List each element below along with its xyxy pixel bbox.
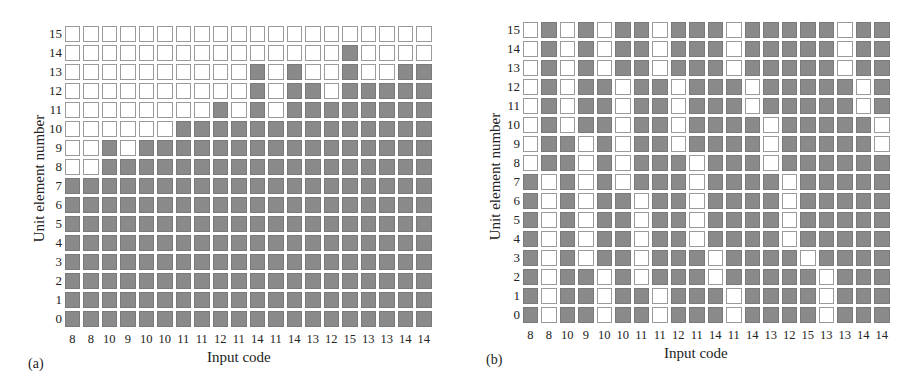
unit-element-grid <box>63 24 433 328</box>
unit-element-cell <box>398 102 414 118</box>
unit-element-cell <box>745 212 761 228</box>
unit-element-cell <box>597 155 613 171</box>
unit-element-cell <box>634 41 650 57</box>
unit-element-cell <box>745 155 761 171</box>
unit-element-cell <box>597 269 613 285</box>
unit-element-cell <box>560 41 576 57</box>
unit-element-cell <box>139 216 155 232</box>
unit-element-cell <box>819 117 835 133</box>
unit-element-cell <box>560 117 576 133</box>
unit-element-cell <box>763 41 779 57</box>
unit-element-cell <box>819 288 835 304</box>
y-tick-label: 11 <box>500 96 520 115</box>
y-axis-ticks: 1514131211109876543210 <box>500 20 520 324</box>
unit-element-cell <box>83 235 99 251</box>
unit-element-cell <box>874 250 890 266</box>
unit-element-cell <box>745 79 761 95</box>
unit-element-cell <box>157 235 173 251</box>
y-tick-label: 4 <box>42 233 62 252</box>
unit-element-cell <box>541 22 557 38</box>
unit-element-cell <box>83 45 99 61</box>
unit-element-cell <box>157 45 173 61</box>
x-tick-label: 15 <box>799 328 818 343</box>
unit-element-cell <box>83 254 99 270</box>
panel-a: Unit element number 15141312111098765432… <box>0 0 458 389</box>
unit-element-cell <box>837 174 853 190</box>
unit-element-cell <box>268 197 284 213</box>
unit-element-cell <box>342 311 358 327</box>
unit-element-cell <box>634 98 650 114</box>
unit-element-cell <box>287 292 303 308</box>
unit-element-cell <box>416 273 432 289</box>
unit-element-cell <box>213 140 229 156</box>
unit-element-cell <box>819 231 835 247</box>
unit-element-cell <box>268 102 284 118</box>
unit-element-cell <box>398 159 414 175</box>
unit-element-cell <box>578 155 594 171</box>
y-tick-label: 3 <box>500 248 520 267</box>
unit-element-cell <box>541 60 557 76</box>
unit-element-cell <box>287 102 303 118</box>
y-tick-label: 6 <box>42 195 62 214</box>
unit-element-cell <box>800 288 816 304</box>
unit-element-cell <box>819 250 835 266</box>
unit-element-cell <box>342 254 358 270</box>
unit-element-cell <box>689 212 705 228</box>
unit-element-cell <box>324 292 340 308</box>
unit-element-cell <box>615 155 631 171</box>
unit-element-cell <box>305 121 321 137</box>
unit-element-cell <box>102 159 118 175</box>
unit-element-cell <box>782 288 798 304</box>
unit-element-cell <box>615 136 631 152</box>
unit-element-cell <box>194 140 210 156</box>
unit-element-cell <box>671 288 687 304</box>
unit-element-cell <box>541 307 557 323</box>
unit-element-cell <box>523 288 539 304</box>
unit-element-cell <box>157 83 173 99</box>
unit-element-cell <box>416 45 432 61</box>
unit-element-cell <box>305 178 321 194</box>
unit-element-cell <box>652 193 668 209</box>
unit-element-cell <box>782 60 798 76</box>
unit-element-cell <box>361 26 377 42</box>
unit-element-cell <box>763 60 779 76</box>
unit-element-cell <box>102 235 118 251</box>
y-tick-label: 14 <box>500 39 520 58</box>
unit-element-cell <box>65 235 81 251</box>
panel-label: (a) <box>28 356 44 372</box>
unit-element-cell <box>523 22 539 38</box>
unit-element-cell <box>745 41 761 57</box>
x-tick-label: 10 <box>137 332 156 347</box>
unit-element-cell <box>65 216 81 232</box>
unit-element-cell <box>782 212 798 228</box>
unit-element-cell <box>800 250 816 266</box>
unit-element-cell <box>416 216 432 232</box>
unit-element-cell <box>102 102 118 118</box>
unit-element-cell <box>157 197 173 213</box>
unit-element-cell <box>856 174 872 190</box>
unit-element-cell <box>671 212 687 228</box>
unit-element-cell <box>837 41 853 57</box>
unit-element-cell <box>213 26 229 42</box>
unit-element-cell <box>689 117 705 133</box>
unit-element-cell <box>689 231 705 247</box>
unit-element-cell <box>671 193 687 209</box>
y-tick-label: 9 <box>500 134 520 153</box>
unit-element-cell <box>671 22 687 38</box>
unit-element-cell <box>800 22 816 38</box>
x-axis-ticks: 8810910101111121114111413121513131414 <box>63 332 433 347</box>
unit-element-cell <box>726 269 742 285</box>
unit-element-cell <box>324 311 340 327</box>
unit-element-cell <box>194 292 210 308</box>
unit-element-cell <box>800 193 816 209</box>
unit-element-cell <box>287 273 303 289</box>
unit-element-cell <box>361 159 377 175</box>
unit-element-cell <box>194 64 210 80</box>
y-tick-label: 10 <box>500 115 520 134</box>
unit-element-cell <box>342 273 358 289</box>
unit-element-cell <box>268 121 284 137</box>
x-tick-label: 11 <box>632 328 651 343</box>
unit-element-cell <box>379 140 395 156</box>
unit-element-cell <box>745 269 761 285</box>
unit-element-cell <box>379 311 395 327</box>
